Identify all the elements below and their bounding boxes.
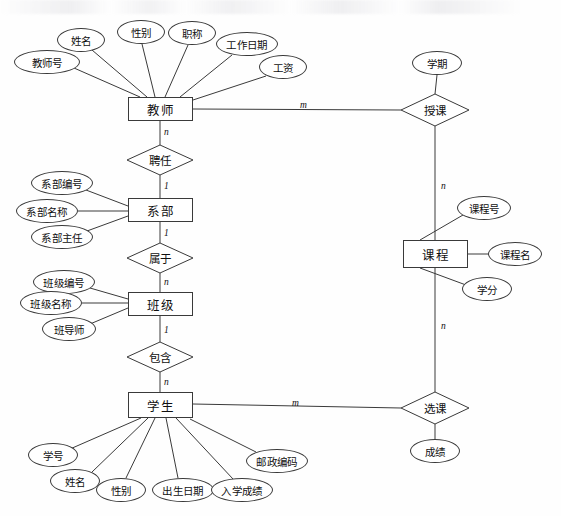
attribute-dept-head[interactable]: 系部主任 xyxy=(31,225,93,249)
link-studentno-student xyxy=(70,418,141,449)
link-workdate-teacher xyxy=(180,55,232,97)
relationship-label-employ: 聘任 xyxy=(127,145,193,175)
attribute-teacher-workdate[interactable]: 工作日期 xyxy=(216,32,278,56)
link-birth-student xyxy=(166,418,178,478)
attribute-student-zip[interactable]: 邮政编码 xyxy=(246,449,308,473)
entity-teacher[interactable]: 教师 xyxy=(128,97,193,121)
link-title-teacher xyxy=(165,45,188,97)
card-belong-class: n xyxy=(164,277,169,287)
entity-department[interactable]: 系部 xyxy=(128,198,193,222)
card-teacher-employ: n xyxy=(164,127,169,137)
attribute-teacher-gender[interactable]: 性别 xyxy=(117,20,165,44)
relationship-label-teach: 授课 xyxy=(401,94,469,126)
link-classno-class xyxy=(90,288,128,299)
card-contain-student: n xyxy=(164,377,169,387)
card-class-contain: 1 xyxy=(164,325,169,335)
relationship-label-contain: 包含 xyxy=(127,342,193,372)
attribute-student-gender[interactable]: 性别 xyxy=(96,478,146,502)
attribute-dept-no[interactable]: 系部编号 xyxy=(31,171,93,195)
link-escore-student xyxy=(176,418,233,479)
attribute-course-no[interactable]: 课程号 xyxy=(457,196,511,220)
attribute-course-credit[interactable]: 学分 xyxy=(462,277,512,301)
attribute-dept-name[interactable]: 系部名称 xyxy=(16,199,78,223)
er-diagram-canvas: 聘任属于包含授课选课教师系部班级学生课程教师号姓名性别职称工作日期工资系部编号系… xyxy=(0,0,561,516)
link-salary-teacher xyxy=(193,76,266,100)
attribute-student-name[interactable]: 姓名 xyxy=(50,469,100,493)
card-dept-belong: 1 xyxy=(164,228,169,238)
attribute-student-birth[interactable]: 出生日期 xyxy=(152,478,214,502)
link-depthead-dept xyxy=(87,216,128,231)
link-credit-course xyxy=(420,268,466,285)
attribute-student-no[interactable]: 学号 xyxy=(28,443,78,467)
link-sgender-student xyxy=(126,418,155,478)
card-student-select: m xyxy=(292,398,299,408)
link-advisor-class xyxy=(90,308,128,324)
link-teachername-teacher xyxy=(92,50,147,97)
entity-class[interactable]: 班级 xyxy=(128,292,193,316)
card-course-select: n xyxy=(441,321,446,331)
relationship-label-select: 选课 xyxy=(401,392,469,424)
entity-student[interactable]: 学生 xyxy=(128,392,193,418)
attribute-class-advisor[interactable]: 班导师 xyxy=(42,317,96,341)
attribute-class-name[interactable]: 班级名称 xyxy=(20,291,82,315)
link-studentname-student xyxy=(92,418,148,472)
attribute-teacher-name[interactable]: 姓名 xyxy=(57,28,105,52)
attribute-teacher-title[interactable]: 职称 xyxy=(168,21,216,45)
card-teacher-teach: m xyxy=(300,100,307,110)
attribute-teacher-no[interactable]: 教师号 xyxy=(14,50,80,74)
attribute-course-name[interactable]: 课程名 xyxy=(488,242,542,266)
link-teacher-teach xyxy=(193,109,401,110)
attribute-grade[interactable]: 成绩 xyxy=(410,439,460,463)
link-deptno-dept xyxy=(86,190,128,206)
link-gender-teacher xyxy=(142,44,155,97)
card-teach-course: n xyxy=(441,181,446,191)
entity-course[interactable]: 课程 xyxy=(403,240,468,268)
attribute-teacher-salary[interactable]: 工资 xyxy=(259,55,307,79)
link-courseno-course xyxy=(420,215,463,240)
attribute-term[interactable]: 学期 xyxy=(412,51,462,75)
card-employ-dept: 1 xyxy=(164,181,169,191)
link-zip-student xyxy=(190,419,256,452)
relationship-label-belong: 属于 xyxy=(127,243,193,273)
attribute-student-score[interactable]: 入学成绩 xyxy=(211,478,273,502)
link-term-teach xyxy=(435,75,437,94)
